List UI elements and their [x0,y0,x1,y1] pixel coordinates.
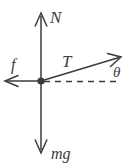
tension-force-line [41,58,119,82]
label-angle-theta: θ [113,64,121,80]
label-weight-force: mg [51,145,71,163]
free-body-diagram: N f T θ mg [0,0,135,167]
label-friction-force: f [11,56,18,74]
diagram-canvas: N f T θ mg [0,0,135,167]
label-normal-force: N [49,8,63,27]
label-tension-force: T [62,52,73,71]
origin-particle-dot [37,77,44,84]
